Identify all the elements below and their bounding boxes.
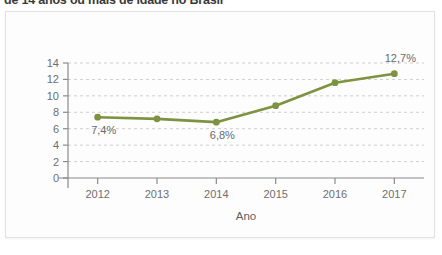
chart-canvas: 02468101214 201220132014201520162017 7,4… — [6, 12, 436, 239]
x-axis-tick-label: 2012 — [85, 188, 109, 200]
chart-card: 02468101214 201220132014201520162017 7,4… — [5, 11, 435, 238]
x-axis-tick-label: 2014 — [204, 188, 228, 200]
y-axis-tick-label: 10 — [47, 90, 59, 102]
series-group — [94, 70, 397, 125]
line-chart: 02468101214 201220132014201520162017 7,4… — [6, 12, 436, 239]
x-axis-tick-label: 2013 — [145, 188, 169, 200]
y-axis-group: 02468101214 — [47, 57, 68, 188]
x-axis-group: 201220132014201520162017 — [58, 178, 424, 200]
x-axis-tick-label: 2017 — [382, 188, 406, 200]
page-title: de 14 anos ou mais de idade no Brasil — [4, 0, 223, 7]
y-axis-tick-label: 4 — [53, 139, 59, 151]
annotations-group: 7,4%6,8%12,7% — [91, 52, 416, 141]
data-point — [272, 102, 279, 109]
data-point-label: 6,8% — [210, 129, 235, 141]
data-point — [154, 115, 161, 122]
x-axis-tick-label: 2016 — [323, 188, 347, 200]
chart-title-strip: de 14 anos ou mais de idade no Brasil — [0, 0, 442, 11]
data-point — [391, 70, 398, 77]
data-point — [332, 79, 339, 86]
x-axis-tick-label: 2015 — [263, 188, 287, 200]
data-point-label: 12,7% — [385, 52, 416, 64]
data-point — [94, 114, 101, 121]
y-axis-tick-label: 8 — [53, 106, 59, 118]
y-axis-tick-label: 12 — [47, 73, 59, 85]
y-axis-tick-label: 14 — [47, 57, 59, 69]
data-point-label: 7,4% — [91, 124, 116, 136]
series-line — [98, 74, 395, 122]
axis-titles-group: Ano — [236, 210, 256, 222]
y-axis-tick-label: 2 — [53, 156, 59, 168]
data-point — [213, 119, 220, 126]
y-axis-tick-label: 6 — [53, 123, 59, 135]
x-axis-title: Ano — [236, 210, 256, 222]
